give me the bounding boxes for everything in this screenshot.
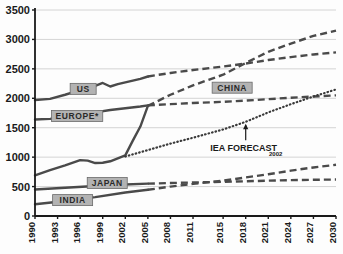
x-tick-label: 2027 bbox=[304, 222, 315, 243]
x-tick-label: 2008 bbox=[161, 222, 172, 243]
annotation-sublabel: 2002 bbox=[269, 151, 283, 157]
annotations-group: IEA FORECAST2002 bbox=[210, 124, 283, 158]
series-label-text: INDIA bbox=[60, 195, 86, 205]
x-tick-label: 1990 bbox=[26, 222, 37, 243]
x-tick-label: 2011 bbox=[184, 221, 195, 242]
series-line-dashed bbox=[148, 95, 336, 105]
x-tick-label: 2015 bbox=[214, 221, 225, 243]
series-label-text: EUROPE* bbox=[55, 111, 98, 121]
y-tick-label: 1000 bbox=[6, 151, 30, 163]
x-tick-label: 1993 bbox=[49, 222, 60, 243]
x-tick-label: 1999 bbox=[94, 222, 105, 243]
annotation-iea-forecast: IEA FORECAST2002 bbox=[210, 124, 283, 158]
series-line-dashed bbox=[148, 180, 336, 184]
y-tick-label: 3000 bbox=[6, 33, 30, 45]
x-tick-label: 2024 bbox=[282, 221, 293, 243]
series-label-text: US bbox=[77, 84, 90, 94]
annotation-label: IEA FORECAST bbox=[210, 143, 277, 153]
series-line-dashed bbox=[148, 31, 336, 106]
series-label-china: CHINA bbox=[212, 82, 252, 93]
x-tick-label: 2030 bbox=[327, 222, 338, 243]
y-tick-label: 3500 bbox=[6, 4, 30, 16]
y-tick-label: 500 bbox=[12, 181, 30, 193]
chart-container: 0500100015002000250030003500 19901993199… bbox=[0, 0, 343, 254]
series-label-europe: EUROPE* bbox=[52, 110, 103, 121]
y-tick-label: 2500 bbox=[6, 63, 30, 75]
y-axis-ticks: 0500100015002000250030003500 bbox=[6, 4, 35, 222]
series-label-text: JAPAN bbox=[92, 178, 123, 188]
x-axis-ticks: 1990199319961999200220052008201120152018… bbox=[26, 216, 338, 243]
x-tick-label: 2021 bbox=[259, 221, 270, 243]
series-label-us: US bbox=[70, 83, 96, 94]
y-tick-label: 1500 bbox=[6, 122, 30, 134]
y-tick-label: 2000 bbox=[6, 92, 30, 104]
x-tick-label: 2018 bbox=[237, 222, 248, 243]
series-label-japan: JAPAN bbox=[87, 178, 127, 189]
series-label-text: CHINA bbox=[217, 83, 247, 93]
x-tick-label: 2005 bbox=[139, 221, 150, 243]
x-tick-label: 2002 bbox=[116, 222, 127, 243]
annotation-arrow-head bbox=[243, 124, 248, 130]
line-chart: 0500100015002000250030003500 19901993199… bbox=[0, 0, 343, 254]
series-line-dashed bbox=[148, 165, 336, 190]
y-tick-label: 0 bbox=[24, 210, 30, 222]
series-label-india: INDIA bbox=[53, 195, 93, 206]
x-tick-label: 1996 bbox=[71, 222, 82, 243]
